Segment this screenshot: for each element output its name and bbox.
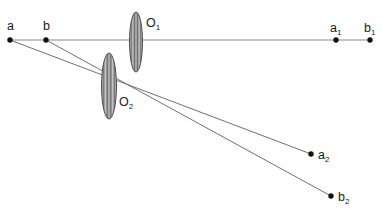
point-label-a1: a1: [330, 21, 342, 37]
ray-group: [10, 40, 331, 196]
point-label-b1-subscript: 1: [371, 28, 376, 37]
point-b1: [367, 37, 372, 42]
lens-label-o1-text: O: [146, 16, 156, 30]
lens-o2: [102, 53, 117, 119]
lens-label-o2: O2: [119, 95, 134, 111]
point-label-b1-text: b: [364, 21, 371, 35]
point-label-b-text: b: [43, 19, 50, 33]
point-label-b: b: [43, 19, 50, 33]
point-label-b2: b2: [338, 190, 350, 206]
optics-ray-diagram: O1 O2 aba1b1a2b2: [0, 0, 382, 214]
point-label-a2-subscript: 2: [325, 155, 330, 164]
point-b: [43, 37, 48, 42]
point-a: [7, 37, 12, 42]
point-a1: [333, 37, 338, 42]
lens-label-o2-text: O: [119, 95, 129, 109]
point-a2: [308, 151, 313, 156]
diagram-canvas: O1 O2 aba1b1a2b2: [0, 0, 382, 214]
point-b2: [328, 193, 333, 198]
point-label-a1-subscript: 1: [337, 28, 342, 37]
point-label-a-text: a: [7, 19, 14, 33]
point-label-a1-text: a: [330, 21, 337, 35]
point-label-a: a: [7, 19, 14, 33]
lens-label-o1-subscript: 1: [156, 23, 161, 32]
lens-label-o1: O1: [146, 16, 161, 32]
ray-a-to-a2: [10, 40, 311, 154]
point-label-a2: a2: [318, 148, 330, 164]
point-label-b2-text: b: [338, 190, 345, 204]
lens-o1: [130, 12, 143, 72]
point-label-b2-subscript: 2: [345, 197, 350, 206]
point-label-b1: b1: [364, 21, 376, 37]
point-label-group: aba1b1a2b2: [7, 19, 376, 206]
ray-b-to-b2: [46, 40, 331, 196]
point-group: [7, 37, 372, 198]
point-label-a2-text: a: [318, 148, 325, 162]
lens-label-o2-subscript: 2: [129, 102, 134, 111]
